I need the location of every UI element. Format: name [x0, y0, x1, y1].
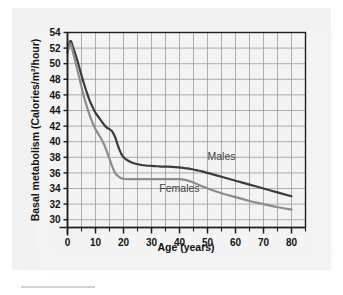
x-tick-label: 60 [230, 237, 242, 248]
x-tick-label: 20 [118, 237, 130, 248]
series-label-females: Females [159, 182, 199, 194]
y-tick-label: 52 [49, 43, 61, 54]
y-tick-label: 42 [49, 121, 61, 132]
y-tick-label: 32 [49, 199, 61, 210]
x-tick-label: 30 [146, 237, 158, 248]
y-tick-label: 34 [49, 183, 61, 194]
series-inline-labels: MalesFemales [159, 150, 235, 193]
x-tick-label: 80 [286, 237, 298, 248]
y-tick-label: 46 [49, 90, 61, 101]
y-tick-label: 50 [49, 58, 61, 69]
x-tick-label: 0 [65, 237, 71, 248]
figure-container: 30323436384042444648505254 0102030405060… [0, 0, 343, 295]
y-tick-label: 48 [49, 74, 61, 85]
bottom-divider [21, 286, 95, 288]
y-tick-label: 36 [49, 168, 61, 179]
series-label-males: Males [207, 150, 235, 162]
x-tick-label: 70 [258, 237, 270, 248]
y-axis: 30323436384042444648505254 [49, 27, 67, 235]
plot-area-frame [68, 33, 306, 228]
y-tick-label: 54 [49, 27, 61, 38]
y-axis-title: Basal metabolism (Calories/m²/hour) [29, 39, 41, 222]
x-axis-title: Age (years) [157, 241, 214, 253]
basal-metabolism-line-chart: 30323436384042444648505254 0102030405060… [0, 0, 343, 295]
y-tick-label: 40 [49, 136, 61, 147]
y-tick-label: 30 [49, 214, 61, 225]
grid-vertical [82, 33, 306, 228]
y-tick-label: 44 [49, 105, 61, 116]
y-tick-label: 38 [49, 152, 61, 163]
x-tick-label: 10 [90, 237, 102, 248]
